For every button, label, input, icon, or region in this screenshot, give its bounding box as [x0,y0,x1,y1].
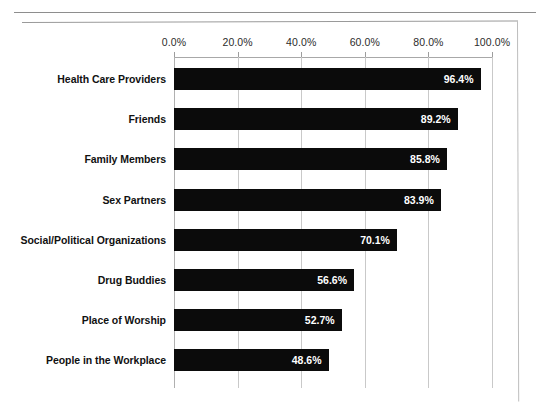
bar-value-label: 52.7% [174,309,335,331]
x-axis-tick-label: 60.0% [350,36,380,48]
category-label: Sex Partners [102,189,166,211]
gridline [174,57,175,388]
category-label: Health Care Providers [57,68,166,90]
category-label: Family Members [84,148,166,170]
bar-value-label: 96.4% [174,68,474,90]
category-label: Social/Political Organizations [20,229,166,251]
bar-value-label: 85.8% [174,148,440,170]
category-label: Place of Worship [82,309,166,331]
bar-value-label: 83.9% [174,189,434,211]
x-axis-tick-label: 20.0% [222,36,252,48]
x-axis-line [174,57,492,58]
category-label: People in the Workplace [46,349,166,371]
bar-value-label: 48.6% [174,349,322,371]
category-label: Drug Buddies [98,269,166,291]
gridline [301,57,302,388]
gridline [365,57,366,388]
gridline [238,57,239,388]
x-axis-tick-label: 100.0% [474,36,510,48]
gridline [492,57,493,388]
category-label: Friends [128,108,166,130]
bar-value-label: 56.6% [174,269,347,291]
x-axis-tick-label: 40.0% [286,36,316,48]
x-axis-tick-label: 0.0% [162,36,186,48]
x-axis-tick-label: 80.0% [413,36,443,48]
horizontal-bar-chart: 0.0%20.0%40.0%60.0%80.0%100.0% Health Ca… [0,0,542,407]
gridline [428,57,429,388]
bar-value-label: 70.1% [174,229,390,251]
bar-value-label: 89.2% [174,108,451,130]
